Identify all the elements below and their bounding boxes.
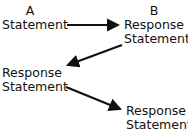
arrow-b-to-c-icon <box>68 45 122 65</box>
arrows-layer <box>0 0 188 131</box>
arrow-c-to-d-icon <box>66 87 120 109</box>
